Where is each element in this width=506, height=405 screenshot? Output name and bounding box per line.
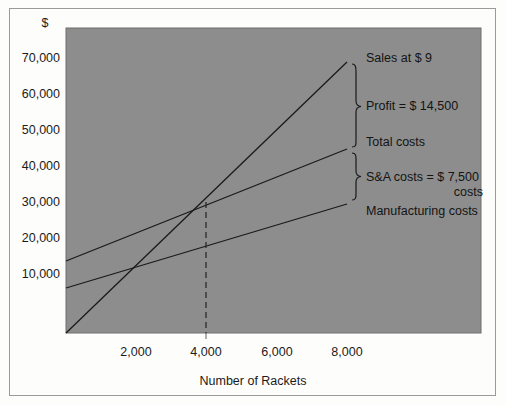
x-tick-label-6000: 6,000: [261, 345, 292, 359]
x-tick-label-4000: 4,000: [190, 345, 221, 359]
y-tick-label-40000: 40,000: [22, 159, 60, 173]
annotation-total-costs-label: Total costs: [366, 135, 425, 149]
y-tick-label-70000: 70,000: [22, 51, 60, 65]
x-axis-title: Number of Rackets: [200, 374, 307, 388]
y-tick-label-50000: 50,000: [22, 123, 60, 137]
y-tick-label-30000: 30,000: [22, 195, 60, 209]
y-tick-label-60000: 60,000: [22, 87, 60, 101]
breakeven-chart: $ 70,000 60,000 50,000 40,000 30,000 20,…: [0, 0, 506, 405]
annotation-manufacturing-costs-label: Manufacturing costs: [366, 204, 478, 218]
y-tick-label-10000: 10,000: [22, 267, 60, 281]
annotation-sa-costs-label-line2: costs: [454, 185, 483, 199]
chart-figure: $ 70,000 60,000 50,000 40,000 30,000 20,…: [0, 0, 506, 405]
y-tick-label-20000: 20,000: [22, 231, 60, 245]
x-tick-label-8000: 8,000: [331, 345, 362, 359]
y-axis-unit-label: $: [42, 16, 49, 30]
annotation-profit-label: Profit = $ 14,500: [366, 99, 458, 113]
annotation-sales-label: Sales at $ 9: [366, 51, 432, 65]
x-tick-label-2000: 2,000: [120, 345, 151, 359]
annotation-sa-costs-label: S&A costs = $ 7,500: [366, 170, 479, 184]
